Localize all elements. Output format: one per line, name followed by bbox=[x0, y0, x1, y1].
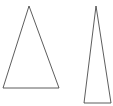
diagram-canvas bbox=[0, 0, 113, 106]
wide-triangle bbox=[3, 6, 59, 88]
narrow-triangle bbox=[84, 6, 111, 103]
